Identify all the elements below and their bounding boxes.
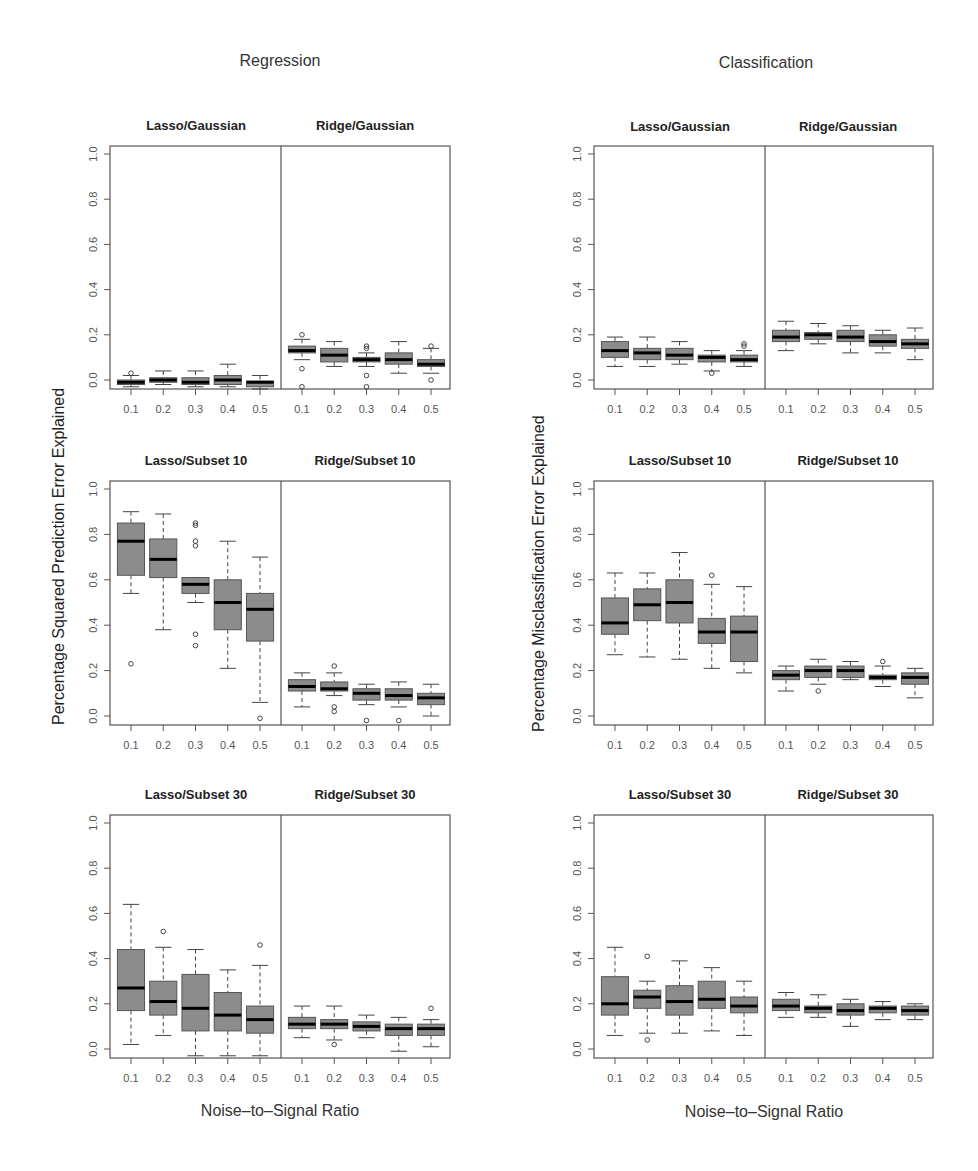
x-tick-label: 0.2 [156,403,171,415]
outlier-point [332,709,337,714]
box [730,616,757,661]
x-tick-label: 0.2 [811,403,826,415]
x-tick-label: 0.4 [391,403,406,415]
y-tick-label: 0.2 [571,663,583,678]
x-tick-label: 0.4 [391,1072,406,1084]
x-tick-label: 0.2 [811,739,826,751]
y-tick-label: 1.0 [87,815,99,830]
x-tick-label: 0.3 [672,403,687,415]
x-tick-label: 0.5 [423,1072,438,1084]
outlier-point [193,543,198,548]
x-tick-label: 0.4 [875,1072,890,1084]
x-tick-label: 0.2 [640,1072,655,1084]
y-tick-label: 1.0 [571,815,583,830]
y-tick-label: 0.0 [571,372,583,387]
y-tick-label: 0.4 [87,282,99,297]
box [214,993,241,1031]
outlier-point [332,1042,337,1047]
x-tick-label: 0.5 [736,403,751,415]
x-tick-label: 0.2 [327,1072,342,1084]
x-tick-label: 0.1 [123,739,138,751]
x-tick-label: 0.3 [843,403,858,415]
x-tick-label: 0.3 [188,1072,203,1084]
y-tick-label: 1.0 [87,481,99,496]
x-tick-label: 0.2 [811,1072,826,1084]
y-tick-label: 0.6 [87,906,99,921]
y-tick-label: 0.4 [571,282,583,297]
y-tick-label: 0.6 [87,237,99,252]
x-tick-label: 0.5 [907,1072,922,1084]
x-tick-label: 0.5 [907,739,922,751]
y-tick-label: 0.0 [571,1041,583,1056]
y-tick-label: 0.8 [571,861,583,876]
x-tick-label: 0.5 [736,1072,751,1084]
x-tick-label: 0.2 [640,739,655,751]
box [634,990,661,1008]
outlier-point [364,373,369,378]
x-tick-label: 0.5 [907,403,922,415]
x-tick-label: 0.4 [875,739,890,751]
outlier-point [396,718,401,723]
x-tick-label: 0.4 [220,1072,235,1084]
x-tick-label: 0.1 [123,1072,138,1084]
box [214,580,241,630]
box [601,977,628,1015]
x-tick-label: 0.1 [607,403,622,415]
x-tick-label: 0.1 [778,739,793,751]
outlier-point [193,632,198,637]
outlier-point [880,659,885,664]
y-tick-label: 0.2 [87,996,99,1011]
x-tick-label: 0.3 [359,1072,374,1084]
y-tick-label: 0.2 [571,327,583,342]
box [698,981,725,1008]
outlier-point [429,344,434,349]
plot-frame [594,815,933,1058]
x-tick-label: 0.3 [843,739,858,751]
x-tick-label: 0.4 [391,739,406,751]
x-tick-label: 0.1 [607,739,622,751]
x-tick-label: 0.2 [327,403,342,415]
x-tick-label: 0.1 [607,1072,622,1084]
x-tick-label: 0.4 [875,403,890,415]
y-tick-label: 0.0 [87,372,99,387]
outlier-point [193,539,198,544]
outlier-point [429,1006,434,1011]
outlier-point [364,384,369,389]
x-tick-label: 0.5 [252,739,267,751]
outlier-point [161,929,166,934]
x-tick-label: 0.4 [220,739,235,751]
x-tick-label: 0.2 [327,739,342,751]
x-tick-label: 0.3 [672,739,687,751]
outlier-point [300,384,305,389]
outlier-point [332,664,337,669]
outlier-point [129,371,134,376]
x-tick-label: 0.3 [843,1072,858,1084]
outlier-point [258,716,263,721]
x-tick-label: 0.4 [220,403,235,415]
y-tick-label: 0.0 [87,1041,99,1056]
x-tick-label: 0.5 [736,739,751,751]
x-tick-label: 0.1 [294,403,309,415]
box [150,981,177,1015]
x-tick-label: 0.1 [123,403,138,415]
outlier-point [193,643,198,648]
x-tick-label: 0.3 [188,403,203,415]
x-tick-label: 0.5 [423,403,438,415]
outlier-point [300,333,305,338]
outlier-point [332,705,337,710]
x-tick-label: 0.5 [252,403,267,415]
y-tick-label: 1.0 [571,146,583,161]
box [182,974,209,1030]
outlier-point [709,573,714,578]
plot-frame [110,815,450,1058]
x-tick-label: 0.5 [423,739,438,751]
y-tick-label: 0.0 [571,708,583,723]
figure: Regression Classification Percentage Squ… [0,0,978,1171]
y-tick-label: 0.4 [571,951,583,966]
box [117,523,144,575]
x-tick-label: 0.2 [156,739,171,751]
y-tick-label: 0.4 [571,618,583,633]
y-tick-label: 1.0 [571,481,583,496]
x-tick-label: 0.1 [294,1072,309,1084]
x-tick-label: 0.2 [640,403,655,415]
